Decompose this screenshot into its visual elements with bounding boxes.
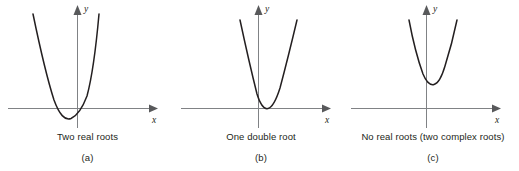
y-axis-label-a: y bbox=[83, 4, 89, 14]
y-axis-arrow-b bbox=[255, 5, 263, 15]
panel-a: x y Two real roots (a) bbox=[0, 0, 175, 171]
panel-c: x y No real roots (two complex roots) (c… bbox=[347, 0, 519, 171]
x-axis-arrow-a bbox=[149, 105, 158, 113]
panel-a-caption: Two real roots bbox=[0, 131, 175, 142]
y-axis-arrow-c bbox=[423, 5, 431, 15]
x-axis-label-b: x bbox=[324, 115, 330, 125]
x-axis-arrow-c bbox=[492, 105, 501, 113]
panel-b: x y One double root (b) bbox=[175, 0, 347, 171]
panel-c-label: (c) bbox=[347, 152, 519, 163]
panel-a-label: (a) bbox=[0, 152, 175, 163]
plot-c: x y bbox=[347, 0, 519, 128]
panel-c-caption: No real roots (two complex roots) bbox=[347, 131, 519, 142]
plot-b: x y bbox=[175, 0, 347, 128]
parabola-curve-b bbox=[240, 20, 297, 109]
x-axis-label-a: x bbox=[151, 115, 157, 125]
y-axis-label-c: y bbox=[432, 4, 438, 14]
parabola-curve-c bbox=[409, 20, 457, 85]
x-axis-label-c: x bbox=[494, 115, 500, 125]
parabola-curve-a bbox=[33, 14, 99, 119]
y-axis-label-b: y bbox=[264, 4, 270, 14]
plot-a: x y bbox=[0, 0, 175, 128]
panel-b-label: (b) bbox=[175, 152, 347, 163]
quadratic-roots-figure: x y Two real roots (a) x y One double ro… bbox=[0, 0, 519, 171]
panel-b-caption: One double root bbox=[175, 131, 347, 142]
y-axis-arrow-a bbox=[74, 5, 82, 15]
x-axis-arrow-b bbox=[322, 105, 331, 113]
